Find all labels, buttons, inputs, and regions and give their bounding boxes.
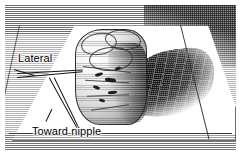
engraving-hatch-bottom-band <box>5 135 236 151</box>
specimen-orientation-figure: Lateral Toward nipple <box>0 0 241 156</box>
label-toward-nipple: Toward nipple <box>32 125 101 137</box>
breast-tissue-specimen <box>75 29 147 125</box>
illustration-plate: Lateral Toward nipple <box>5 5 236 151</box>
label-lateral: Lateral <box>18 52 52 64</box>
